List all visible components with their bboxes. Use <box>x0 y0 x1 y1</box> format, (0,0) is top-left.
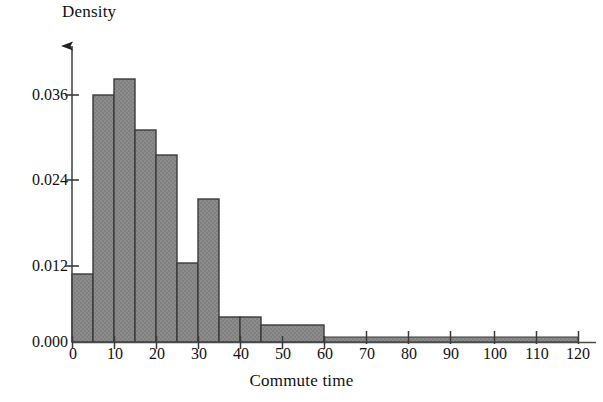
bar-0-5 <box>72 274 93 342</box>
bar-20-25 <box>156 155 177 342</box>
bar-30-35 <box>198 199 219 342</box>
bar-25-30 <box>177 263 198 342</box>
bar-10-15 <box>114 79 135 342</box>
histogram-bars <box>72 79 578 342</box>
bar-45-60 <box>261 325 324 342</box>
bar-35-40 <box>219 317 240 342</box>
bar-15-20 <box>135 130 156 342</box>
bar-5-10 <box>93 95 114 342</box>
histogram-figure: Density Commute time 0.000 0.012 0.024 0… <box>0 0 603 402</box>
bar-40-45 <box>240 317 261 342</box>
plot-area <box>0 0 603 402</box>
